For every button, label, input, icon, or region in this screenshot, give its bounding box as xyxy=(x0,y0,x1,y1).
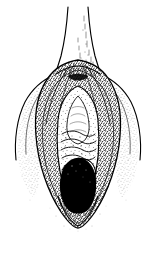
anatomical-illustration xyxy=(0,0,156,258)
illustration-plate xyxy=(0,0,156,258)
inferior-dark-aperture xyxy=(60,158,96,214)
